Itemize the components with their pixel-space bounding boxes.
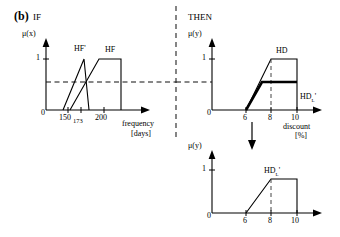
- consequent-series-label-hd: HD: [276, 47, 288, 55]
- antecedent-x-axis-label: frequency: [122, 120, 154, 128]
- antecedent-ytick-label-0: 0: [41, 109, 45, 117]
- consequent-y-axis-label: μ(y): [188, 30, 202, 38]
- result-series-label-hdl-prime: HDL': [264, 167, 280, 177]
- antecedent-y-axis-label: μ(x): [22, 30, 36, 38]
- hdl-base-bottom: HD: [264, 166, 276, 175]
- consequent-x-arrowhead: [313, 107, 322, 114]
- antecedent-x-axis-unit: [days]: [131, 130, 151, 138]
- result-y-axis-label: μ(y): [188, 142, 202, 150]
- result-x-arrowhead: [313, 210, 322, 217]
- consequent-xtick-label-8: 8: [268, 114, 272, 122]
- consequent-xtick-label-6: 6: [243, 114, 247, 122]
- result-y-arrowhead: [209, 150, 216, 159]
- result-ytick-label-1: 1: [202, 165, 206, 173]
- consequent-y-arrowhead: [209, 38, 216, 47]
- consequent-series-label-hdl-prime: HDL': [300, 93, 316, 103]
- antecedent-y-arrowhead: [43, 38, 50, 47]
- result-ytick-label-0: 0: [207, 212, 211, 220]
- antecedent-series-hf: [70, 59, 121, 110]
- defuzzification-arrow: [248, 122, 256, 150]
- figure-label: (b): [14, 10, 29, 22]
- hdl-prime-top: ': [315, 92, 316, 101]
- hdl-base-top: HD: [300, 92, 312, 101]
- then-keyword: THEN: [188, 13, 212, 22]
- hdl-prime-bottom: ': [279, 166, 280, 175]
- consequent-x-axis-unit: [%]: [295, 132, 307, 140]
- antecedent-xtick-label-150: 150: [59, 114, 71, 122]
- if-keyword: IF: [33, 13, 41, 22]
- antecedent-xtick-label-200: 200: [95, 114, 107, 122]
- consequent-ytick-label-1: 1: [202, 54, 206, 62]
- consequent-x-axis-label: discount: [283, 123, 310, 131]
- antecedent-series-label-hf-prime: HF': [74, 45, 86, 53]
- result-xtick-label-8: 8: [268, 217, 272, 225]
- antecedent-xtick-label-173: 173: [73, 118, 83, 125]
- antecedent-x-arrowhead: [141, 107, 150, 114]
- fuzzy-inference-figure: [0, 0, 340, 237]
- consequent-xtick-label-10: 10: [291, 114, 299, 122]
- result-chart: [209, 150, 322, 216]
- antecedent-ytick-label-1: 1: [36, 54, 40, 62]
- antecedent-series-label-hf: HF: [105, 46, 115, 54]
- consequent-ytick-label-0: 0: [207, 109, 211, 117]
- result-xtick-label-10: 10: [291, 217, 299, 225]
- result-xtick-label-6: 6: [243, 217, 247, 225]
